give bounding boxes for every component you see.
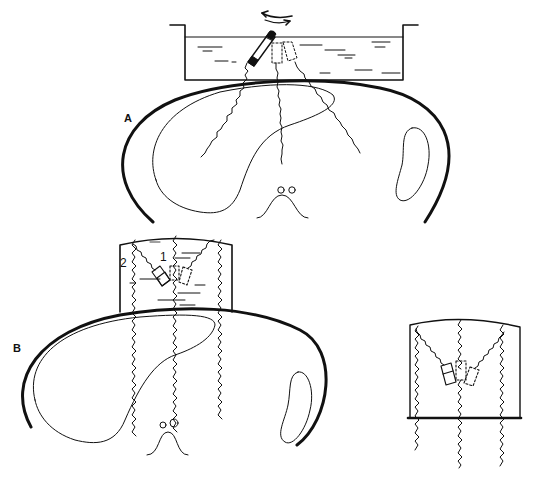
panel-a (123, 11, 449, 222)
sound-beam (458, 380, 462, 468)
sound-beam (173, 236, 177, 432)
kidney-outline (281, 372, 312, 443)
aorta (278, 187, 284, 193)
sound-beam (201, 63, 248, 157)
sound-beam (416, 329, 444, 365)
spine-outline (257, 195, 308, 218)
callout-2: 2 (120, 257, 127, 269)
panel-b (23, 236, 327, 455)
rotation-arrow-icon (262, 11, 292, 25)
sound-beam (132, 240, 136, 436)
panel-label-b: B (13, 343, 21, 354)
sound-beam (415, 326, 419, 450)
vena-cava (289, 187, 295, 193)
sound-beam (188, 240, 214, 268)
transducer-positions (152, 266, 192, 286)
aorta (160, 422, 166, 428)
spine-outline (147, 432, 188, 455)
diagram-canvas (0, 0, 536, 482)
sound-beam (458, 320, 462, 369)
sound-beam (475, 332, 504, 368)
panel-b-detail (408, 319, 521, 468)
callout-1: 1 (160, 251, 167, 263)
abdominal-wall (23, 309, 327, 445)
sound-beam (500, 325, 504, 466)
transducer-alt-positions (272, 42, 297, 63)
liver-outline (33, 315, 215, 443)
panel-label-a: A (124, 113, 132, 124)
sound-beam (218, 240, 222, 419)
water-tank (170, 25, 418, 80)
sound-beam (295, 62, 360, 153)
kidney-outline (396, 128, 429, 201)
peritoneal-outline (153, 85, 335, 213)
sound-beam (276, 63, 283, 164)
